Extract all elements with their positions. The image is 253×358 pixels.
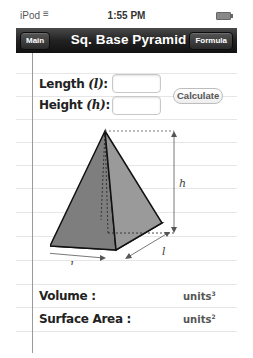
pyramid-diagram: h l l [50, 125, 210, 265]
formula-button[interactable]: Formula [189, 32, 233, 50]
front-length-symbol: l [70, 259, 74, 265]
volume-units: units3 [183, 290, 216, 302]
height-symbol: h [179, 177, 186, 190]
ruled-line [16, 307, 237, 308]
surface-area-units: units2 [183, 313, 216, 325]
margin-line [32, 53, 33, 353]
length-label: Length (l): [39, 77, 108, 91]
height-label: Height (h): [39, 98, 110, 112]
navigation-bar: Main Sq. Base Pyramid Formula [16, 28, 237, 53]
battery-icon [216, 12, 231, 20]
volume-label: Volume : [39, 289, 96, 303]
notebook-paper: Length (l): Height (h): Calculate Volume… [16, 53, 237, 358]
height-input[interactable] [112, 96, 161, 115]
length-input[interactable] [112, 74, 161, 93]
surface-area-label: Surface Area : [39, 312, 131, 326]
clock: 1:55 PM [16, 10, 237, 21]
status-bar: iPod ≡ 1:55 PM [16, 0, 237, 28]
ruled-line [16, 284, 237, 285]
calculate-button[interactable]: Calculate [173, 88, 223, 104]
ruled-line [16, 331, 237, 332]
side-length-symbol: l [162, 245, 166, 258]
ruled-line [16, 119, 237, 120]
